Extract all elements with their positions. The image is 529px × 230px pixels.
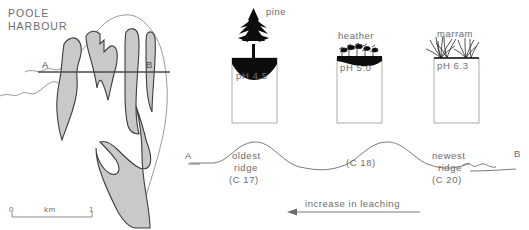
- profile-label-b: B: [514, 148, 521, 159]
- dune-ridge-shape-2: [86, 31, 117, 100]
- ridge-label-middle-century: (C 18): [346, 157, 376, 168]
- profile-label-a: A: [185, 150, 192, 161]
- plant-label-marram: marram: [437, 28, 473, 39]
- map-title-line1: POOLE: [8, 8, 49, 19]
- heather-shrub-icon: [339, 43, 378, 56]
- plant-label-heather: heather: [338, 30, 374, 41]
- map-panel: [0, 15, 170, 228]
- inner-coast-line: [0, 82, 66, 96]
- soil-column-marram: [426, 36, 479, 123]
- ridge-label-newest-line2: ridge: [438, 162, 462, 173]
- pine-tree-icon: [238, 8, 269, 60]
- beach-bumps: [462, 164, 496, 168]
- plant-label-pine: pine: [266, 6, 286, 17]
- dune-ridge-shape-1: [57, 38, 82, 140]
- map-title-line2: HARBOUR: [8, 21, 68, 32]
- soil-column-heather: [337, 43, 382, 123]
- ridge-label-newest-century: (C 20): [432, 174, 462, 185]
- ridge-label-newest-line1: newest: [432, 150, 465, 161]
- soil-column-pine: [232, 8, 277, 123]
- ridge-label-oldest-line1: oldest: [232, 150, 261, 161]
- leaching-arrow: [287, 209, 420, 216]
- ridge-label-oldest-line2: ridge: [234, 162, 258, 173]
- scale-label-max: 1: [89, 204, 94, 215]
- scale-label-unit: km: [44, 204, 56, 215]
- ph-label-marram: pH 6.3: [437, 60, 469, 71]
- map-transect-label-a: A: [42, 59, 49, 70]
- scale-label-min: 0: [9, 204, 14, 215]
- ph-label-pine: pH 4.5: [236, 70, 268, 81]
- dune-spit-shape-south: [96, 106, 151, 228]
- map-transect-label-b: B: [146, 59, 153, 70]
- ridge-label-oldest-century: (C 17): [229, 174, 259, 185]
- shoreline-water-line: [470, 169, 516, 171]
- leaching-arrow-head: [287, 209, 297, 216]
- leaching-arrow-caption: increase in leaching: [305, 198, 400, 209]
- dune-succession-diagram: POOLE HARBOUR A B 0 km 1 pine heather ma…: [0, 0, 529, 230]
- ph-label-heather: pH 5.0: [340, 62, 372, 73]
- marram-grass-icon: [426, 36, 479, 58]
- dune-ridge-shape-3: [125, 29, 139, 134]
